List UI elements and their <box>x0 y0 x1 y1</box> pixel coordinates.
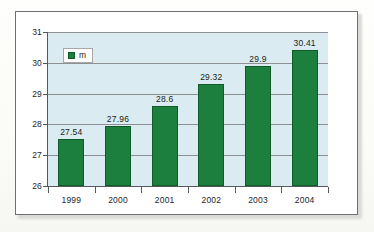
x-axis-tick-3 <box>188 187 189 193</box>
x-axis-label-2000: 2000 <box>108 195 128 205</box>
x-axis-tick-1 <box>95 187 96 193</box>
bar-value-2002: 29.32 <box>200 72 222 82</box>
bar-2000 <box>105 126 131 186</box>
chart-inner-canvas: m 26272829303127.54199927.96200028.62001… <box>16 12 357 214</box>
chart-page: m 26272829303127.54199927.96200028.62001… <box>0 0 374 232</box>
bar-value-2001: 28.6 <box>156 94 173 104</box>
bar-value-2000: 27.96 <box>107 114 129 124</box>
bar-value-1999: 27.54 <box>60 127 82 137</box>
x-axis-label-2004: 2004 <box>295 195 315 205</box>
legend-label-m: m <box>79 51 86 60</box>
gridline-30 <box>48 63 328 64</box>
bar-value-2003: 29.9 <box>249 54 266 64</box>
bar-2003 <box>245 66 271 186</box>
y-axis-label-27: 27 <box>32 150 47 160</box>
y-axis-line <box>47 32 48 187</box>
legend-swatch-m <box>68 52 75 59</box>
gridline-29 <box>48 94 328 95</box>
gridline-27 <box>48 155 328 156</box>
bar-value-2004: 30.41 <box>294 38 316 48</box>
chart-frame: m 26272829303127.54199927.96200028.62001… <box>15 11 358 215</box>
gridline-31 <box>48 32 328 33</box>
x-axis-tick-4 <box>235 187 236 193</box>
chart-legend: m <box>63 48 93 63</box>
y-axis-label-29: 29 <box>32 89 47 99</box>
bar-2004 <box>292 50 318 186</box>
x-axis-label-2001: 2001 <box>155 195 175 205</box>
x-axis-tick-6 <box>328 187 329 193</box>
y-axis-label-28: 28 <box>32 119 47 129</box>
x-axis-tick-2 <box>141 187 142 193</box>
x-axis-tick-5 <box>281 187 282 193</box>
y-axis-label-30: 30 <box>32 58 47 68</box>
x-axis-label-1999: 1999 <box>61 195 81 205</box>
y-axis-label-31: 31 <box>32 27 47 37</box>
x-axis-label-2002: 2002 <box>201 195 221 205</box>
bar-1999 <box>58 139 84 186</box>
x-axis-tick-0 <box>48 187 49 193</box>
bar-2001 <box>152 106 178 186</box>
y-axis-label-26: 26 <box>32 181 47 191</box>
bar-2002 <box>198 84 224 186</box>
x-axis-label-2003: 2003 <box>248 195 268 205</box>
gridline-28 <box>48 124 328 125</box>
